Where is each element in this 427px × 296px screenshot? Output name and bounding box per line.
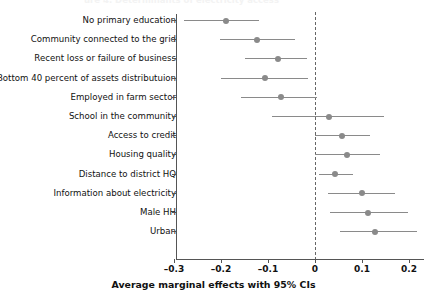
y-axis-tick — [172, 116, 176, 117]
category-label: Bottom 40 percent of assets distributuio… — [0, 73, 176, 83]
x-axis-tick-label: –0.1 — [248, 264, 288, 274]
x-axis-tick — [362, 259, 363, 263]
x-axis-spine — [176, 259, 424, 260]
category-label: No primary education — [83, 15, 176, 25]
x-axis-tick — [268, 259, 269, 263]
point-estimate-marker — [372, 229, 378, 235]
confidence-interval-line — [340, 231, 417, 232]
forest-plot-figure: ure 4. Determinants of electricity acces… — [0, 0, 427, 296]
point-estimate-marker — [254, 37, 260, 43]
point-estimate-marker — [278, 94, 284, 100]
point-estimate-marker — [359, 190, 365, 196]
category-label: Information about electricity — [53, 188, 176, 198]
x-axis-tick — [221, 259, 222, 263]
point-estimate-marker — [275, 56, 281, 62]
category-label: Distance to district HQ — [79, 169, 176, 179]
category-label: Community connected to the grid — [31, 34, 176, 44]
y-axis-tick — [172, 97, 176, 98]
y-axis-tick — [172, 231, 176, 232]
point-estimate-marker — [344, 152, 350, 158]
point-estimate-marker — [326, 114, 332, 120]
x-axis-tick-label: –0.3 — [154, 264, 194, 274]
y-axis-tick — [172, 193, 176, 194]
x-axis-tick — [174, 259, 175, 263]
y-axis-tick — [172, 135, 176, 136]
y-axis-tick — [172, 212, 176, 213]
category-label: Recent loss or failure of business — [34, 53, 176, 63]
y-axis-tick — [172, 78, 176, 79]
plot-area: No primary educationCommunity connected … — [0, 0, 427, 296]
x-axis-title: Average marginal effects with 95% CIs — [0, 279, 427, 290]
point-estimate-marker — [262, 75, 268, 81]
x-axis-tick-label: –0.2 — [201, 264, 241, 274]
x-axis-tick-label: 0.1 — [342, 264, 382, 274]
x-axis-tick-label: 0 — [295, 264, 335, 274]
category-label: School in the community — [69, 111, 176, 121]
confidence-interval-line — [184, 20, 259, 21]
x-axis-tick — [315, 259, 316, 263]
y-axis-tick — [172, 174, 176, 175]
y-axis-spine — [176, 14, 177, 260]
point-estimate-marker — [365, 210, 371, 216]
y-axis-tick — [172, 58, 176, 59]
x-axis-tick-label: 0.2 — [389, 264, 427, 274]
point-estimate-marker — [339, 133, 345, 139]
category-label: Male HH — [140, 207, 176, 217]
point-estimate-marker — [332, 171, 338, 177]
category-label: Housing quality — [109, 149, 176, 159]
y-axis-tick — [172, 39, 176, 40]
y-axis-tick — [172, 154, 176, 155]
y-axis-tick — [172, 20, 176, 21]
category-label: Employed in farm sector — [71, 92, 176, 102]
x-axis-tick — [409, 259, 410, 263]
point-estimate-marker — [223, 18, 229, 24]
category-label: Access to credit — [108, 130, 176, 140]
